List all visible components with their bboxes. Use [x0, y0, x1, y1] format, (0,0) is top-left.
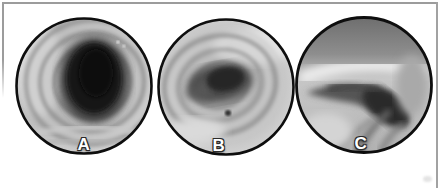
endoscopy-art-b [156, 17, 296, 157]
figure-strip: A [0, 0, 440, 188]
panel-label-c: C [355, 135, 368, 152]
endoscopy-photo-b: B [156, 17, 296, 157]
scan-artifact-speck [423, 176, 432, 182]
endoscopy-photo-c: C [294, 15, 434, 155]
frame-line-right [436, 2, 438, 188]
panel-label-b: B [213, 137, 226, 154]
endoscopy-photo-a: A [14, 16, 154, 156]
frame-line-top [2, 2, 437, 4]
frame-line-left [2, 2, 4, 98]
panel-label-a: A [78, 136, 91, 153]
